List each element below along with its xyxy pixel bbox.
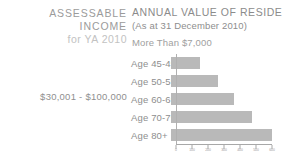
assessable-income-panel: ASSESSABLE INCOME for YA 2010 $30,001 - … xyxy=(0,0,131,162)
bar xyxy=(171,57,200,69)
x-tick-label: 600 xyxy=(269,148,275,152)
bar-category-label: Age 60-69 xyxy=(131,94,171,105)
bar-row: Age 60-69 xyxy=(131,90,272,108)
income-range-label: $30,001 - $100,000 xyxy=(40,91,127,102)
bar-track xyxy=(171,72,272,90)
x-tick-label: 200 xyxy=(205,148,211,152)
chart-subtitle: (As at 31 December 2010) xyxy=(132,20,247,31)
bar-row: Age 70-79 xyxy=(131,108,272,126)
bar-category-label: Age 45-49 xyxy=(131,58,171,69)
bar-track xyxy=(171,54,272,72)
bar-category-label: Age 80+ xyxy=(131,130,171,141)
bar-row: Age 50-59 xyxy=(131,72,272,90)
assessable-income-line2: INCOME xyxy=(49,20,127,33)
bar-row: Age 80+ xyxy=(131,126,272,144)
infographic-panel: ASSESSABLE INCOME for YA 2010 $30,001 - … xyxy=(0,0,282,162)
x-axis-ticks: 0100200300400500600 xyxy=(176,145,272,152)
bar xyxy=(171,129,272,141)
bar-row: Age 45-49 xyxy=(131,54,272,72)
bar xyxy=(171,93,234,105)
x-tick-label: 400 xyxy=(237,148,243,152)
x-tick-label: 500 xyxy=(253,148,259,152)
x-tick-label: 300 xyxy=(221,148,227,152)
bar xyxy=(171,111,252,123)
bar-track xyxy=(171,90,272,108)
bar-category-label: Age 50-59 xyxy=(131,76,171,87)
assessable-income-heading: ASSESSABLE INCOME for YA 2010 xyxy=(49,7,127,46)
x-tick-label: 100 xyxy=(189,148,195,152)
bar-category-label: Age 70-79 xyxy=(131,112,171,123)
bar-track xyxy=(171,126,272,144)
annual-value-panel: ANNUAL VALUE OF RESIDENCE (As at 31 Dece… xyxy=(131,0,282,162)
bar-rows: Age 45-49Age 50-59Age 60-69Age 70-79Age … xyxy=(131,54,272,144)
bar xyxy=(171,75,218,87)
x-tick-label: 0 xyxy=(175,148,177,152)
bar-track xyxy=(171,108,272,126)
assessable-income-line1: ASSESSABLE xyxy=(49,7,127,20)
bar-chart: Age 45-49Age 50-59Age 60-69Age 70-79Age … xyxy=(131,54,282,162)
assessment-year-label: for YA 2010 xyxy=(49,33,127,46)
chart-band-label: More Than $7,000 xyxy=(132,37,212,48)
chart-title: ANNUAL VALUE OF RESIDENCE xyxy=(132,6,282,18)
